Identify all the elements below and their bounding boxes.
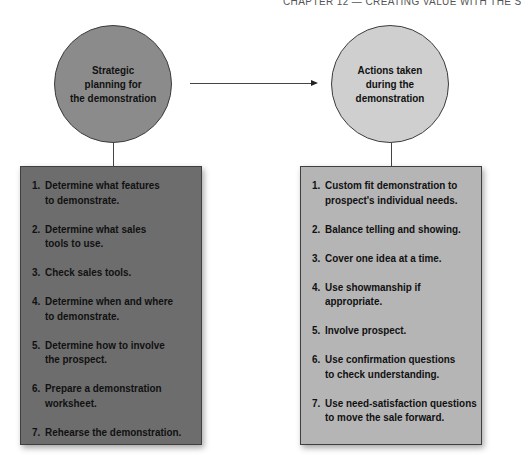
item-number: 6.	[312, 352, 320, 367]
list-item: 2. Balance telling and showing.	[301, 222, 481, 237]
actions-taken-box: 1. Custom fit demonstration to prospect'…	[300, 166, 482, 445]
item-number: 7.	[32, 425, 40, 440]
item-text: Use need-satisfaction questions to move …	[325, 396, 488, 425]
item-text: Involve prospect.	[325, 323, 488, 338]
list-item: 5. Involve prospect.	[301, 323, 481, 338]
right-connector-line	[391, 143, 392, 166]
item-text: Determine what sales tools to use.	[45, 222, 208, 251]
item-number: 1.	[312, 178, 320, 193]
item-number: 3.	[32, 265, 40, 280]
item-text: Determine how to involve the prospect.	[45, 338, 208, 367]
item-text: Custom fit demonstration to prospect's i…	[325, 178, 488, 207]
item-number: 1.	[32, 178, 40, 193]
item-text: Determine what features to demonstrate.	[45, 178, 208, 207]
list-item: 6. Use confirmation questions to check u…	[301, 352, 481, 381]
list-item: 2. Determine what sales tools to use.	[21, 222, 201, 251]
actions-taken-list: 1. Custom fit demonstration to prospect'…	[301, 178, 481, 425]
left-connector-line	[113, 143, 114, 166]
item-text: Rehearse the demonstration.	[45, 425, 208, 440]
item-number: 5.	[32, 338, 40, 353]
item-number: 4.	[312, 280, 320, 295]
actions-taken-circle: Actions taken during the demonstration	[331, 25, 449, 143]
list-item: 7. Use need-satisfaction questions to mo…	[301, 396, 481, 425]
item-number: 2.	[32, 222, 40, 237]
list-item: 3. Cover one idea at a time.	[301, 251, 481, 266]
item-number: 6.	[32, 381, 40, 396]
item-number: 2.	[312, 222, 320, 237]
list-item: 4. Use showmanship if appropriate.	[301, 280, 481, 309]
list-item: 4. Determine when and where to demonstra…	[21, 294, 201, 323]
strategic-planning-box: 1. Determine what features to demonstrat…	[20, 166, 202, 445]
item-number: 3.	[312, 251, 320, 266]
strategic-planning-circle: Strategic planning for the demonstration	[54, 25, 172, 143]
item-text: Use showmanship if appropriate.	[325, 280, 488, 309]
item-number: 4.	[32, 294, 40, 309]
item-text: Cover one idea at a time.	[325, 251, 488, 266]
list-item: 3. Check sales tools.	[21, 265, 201, 280]
item-number: 5.	[312, 323, 320, 338]
flow-arrow-line	[190, 83, 312, 84]
list-item: 1. Determine what features to demonstrat…	[21, 178, 201, 207]
list-item: 7. Rehearse the demonstration.	[21, 425, 201, 440]
strategic-planning-label: Strategic planning for the demonstration	[70, 63, 156, 105]
list-item: 5. Determine how to involve the prospect…	[21, 338, 201, 367]
item-text: Determine when and where to demonstrate.	[45, 294, 208, 323]
item-text: Check sales tools.	[45, 265, 208, 280]
list-item: 1. Custom fit demonstration to prospect'…	[301, 178, 481, 207]
arrow-head-icon	[311, 80, 318, 86]
strategic-planning-list: 1. Determine what features to demonstrat…	[21, 178, 201, 439]
running-header: CHAPTER 12 — CREATING VALUE WITH THE S	[283, 0, 522, 7]
item-text: Prepare a demonstration worksheet.	[45, 381, 208, 410]
item-text: Balance telling and showing.	[325, 222, 488, 237]
list-item: 6. Prepare a demonstration worksheet.	[21, 381, 201, 410]
item-text: Use confirmation questions to check unde…	[325, 352, 488, 381]
actions-taken-label: Actions taken during the demonstration	[356, 63, 425, 105]
item-number: 7.	[312, 396, 320, 411]
